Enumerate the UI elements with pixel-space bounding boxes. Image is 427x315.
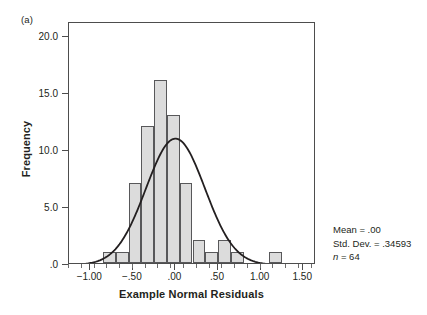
histogram-figure: (a) 20.015.010.05.0.0−1.00−.50.00.501.00… (0, 0, 427, 315)
x-axis-tick-label: 1.00 (230, 271, 290, 282)
stat-mean: Mean = .00 (333, 223, 411, 237)
x-axis-minor-tick (298, 264, 299, 268)
x-axis-minor-tick (221, 264, 222, 268)
x-axis-tick (260, 264, 261, 270)
x-axis-tick (217, 264, 218, 270)
x-axis-minor-tick (157, 264, 158, 268)
y-axis-tick-label: .0 (8, 259, 58, 270)
x-axis-minor-tick (209, 264, 210, 268)
x-axis-minor-tick (170, 264, 171, 268)
x-axis-minor-tick (81, 264, 82, 268)
x-axis-tick (132, 264, 133, 270)
x-axis-minor-tick (234, 264, 235, 268)
x-axis-minor-tick (260, 264, 261, 268)
statistics-annotation: Mean = .00 Std. Dev. = .34593 n = 64 (333, 223, 411, 264)
x-axis-minor-tick (132, 264, 133, 268)
panel-label: (a) (21, 14, 33, 25)
plot-area (68, 22, 315, 264)
normal-curve (69, 23, 314, 263)
plot-inner (69, 23, 314, 263)
stat-std-dev: Std. Dev. = .34593 (333, 237, 411, 251)
y-axis-tick-label: 10.0 (8, 144, 58, 155)
x-axis-tick (89, 264, 90, 270)
y-axis-tick-label: 5.0 (8, 201, 58, 212)
x-axis-minor-tick (183, 264, 184, 268)
x-axis-minor-tick (247, 264, 248, 268)
stat-n-value: = 64 (338, 251, 359, 262)
x-axis-tick (302, 264, 303, 270)
x-axis-tick-label: 1.50 (272, 271, 332, 282)
y-axis-tick-label: 20.0 (8, 30, 58, 41)
x-axis-title: Example Normal Residuals (68, 288, 315, 300)
x-axis-tick-label: −1.00 (59, 271, 119, 282)
x-axis-minor-tick (285, 264, 286, 268)
x-axis-minor-tick (106, 264, 107, 268)
x-axis-minor-tick (272, 264, 273, 268)
stat-sample-size: n = 64 (333, 250, 411, 264)
x-axis-tick-label: .50 (187, 271, 247, 282)
x-axis-minor-tick (68, 264, 69, 268)
x-axis-minor-tick (196, 264, 197, 268)
y-axis-tick-label: 15.0 (8, 87, 58, 98)
x-axis-minor-tick (94, 264, 95, 268)
x-axis-tick-label: −.50 (102, 271, 162, 282)
x-axis-minor-tick (145, 264, 146, 268)
x-axis-minor-tick (311, 264, 312, 268)
x-axis-tick (174, 264, 175, 270)
y-axis-title: Frequency (20, 104, 32, 194)
y-axis-tick (62, 264, 68, 265)
x-axis-tick-label: .00 (144, 271, 204, 282)
x-axis-minor-tick (119, 264, 120, 268)
